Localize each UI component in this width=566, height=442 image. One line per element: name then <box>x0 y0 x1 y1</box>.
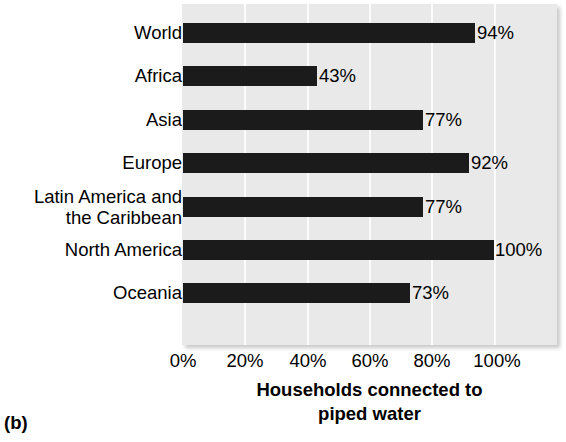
x-axis-title-line-1: Households connected to <box>182 378 557 402</box>
bar-oceania <box>183 283 410 303</box>
panel-caption: (b) <box>4 412 28 434</box>
bar-africa <box>183 66 317 86</box>
table-row: Oceania 73% <box>0 272 566 316</box>
table-row: Europe 92% <box>0 142 566 186</box>
x-tick-40: 40% <box>289 349 326 373</box>
table-row: North America 100% <box>0 229 566 273</box>
table-row: Africa 43% <box>0 55 566 99</box>
x-axis: 0% 20% 40% 60% 80% 100% <box>0 349 566 375</box>
bar-rows: World 94% Africa 43% Asia 77% Europe <box>0 0 566 345</box>
table-row: Latin America and the Caribbean 77% <box>0 186 566 230</box>
bar-track-africa: 43% <box>183 66 557 86</box>
bar-latin-america-and-the-caribbean <box>183 197 423 217</box>
bar-track-europe: 92% <box>183 153 557 173</box>
x-tick-20: 20% <box>226 349 263 373</box>
bar-world <box>183 23 475 43</box>
category-label-world: World <box>6 22 182 43</box>
category-label-north-america: North America <box>6 239 182 260</box>
bar-value-europe: 92% <box>471 151 508 175</box>
bar-track-asia: 77% <box>183 110 557 130</box>
figure-panel-b: World 94% Africa 43% Asia 77% Europe <box>0 0 566 442</box>
category-label-africa: Africa <box>6 65 182 86</box>
category-label-europe: Europe <box>6 152 182 173</box>
bar-track-oceania: 73% <box>183 283 557 303</box>
bar-asia <box>183 110 423 130</box>
category-label-latin-america-and-the-caribbean: Latin America and the Caribbean <box>6 186 182 228</box>
category-label-asia: Asia <box>6 109 182 130</box>
bar-value-latin-america-and-the-caribbean: 77% <box>425 195 462 219</box>
bar-north-america <box>183 240 494 260</box>
bar-track-north-america: 100% <box>183 240 557 260</box>
category-label-oceania: Oceania <box>6 282 182 303</box>
bar-europe <box>183 153 469 173</box>
x-axis-title: Households connected to piped water <box>182 378 557 426</box>
x-tick-60: 60% <box>351 349 388 373</box>
x-tick-100: 100% <box>473 349 520 373</box>
table-row: Asia 77% <box>0 99 566 143</box>
table-row: World 94% <box>0 12 566 56</box>
bar-value-north-america: 100% <box>495 238 542 262</box>
bar-value-asia: 77% <box>425 108 462 132</box>
bar-track-latin-america-and-the-caribbean: 77% <box>183 197 557 217</box>
x-tick-0: 0% <box>170 349 197 373</box>
bar-value-oceania: 73% <box>412 281 449 305</box>
x-axis-title-line-2: piped water <box>182 402 557 426</box>
bar-value-world: 94% <box>477 21 514 45</box>
bar-value-africa: 43% <box>319 64 356 88</box>
x-tick-80: 80% <box>413 349 450 373</box>
bar-track-world: 94% <box>183 23 557 43</box>
